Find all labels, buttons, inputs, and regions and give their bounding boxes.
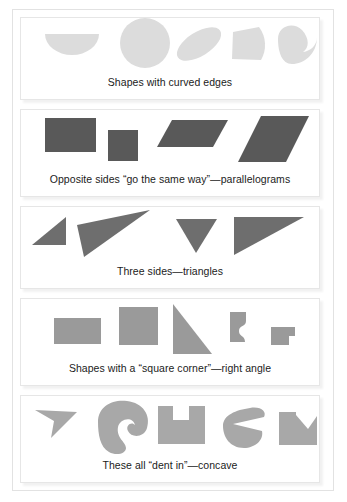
shape-square bbox=[108, 130, 138, 161]
panel-triangles: Three sides—triangles bbox=[20, 206, 320, 289]
caption-parallelograms: Opposite sides “go the same way”—paralle… bbox=[21, 173, 319, 185]
shape-square bbox=[119, 307, 158, 345]
panel-right-angle: Shapes with a “square corner”—right angl… bbox=[20, 298, 320, 386]
shape-rectangle bbox=[45, 118, 96, 152]
panel-stack: Shapes with curved edges Opposite sides … bbox=[20, 17, 326, 483]
shape-arrow-dart bbox=[35, 410, 77, 438]
shape-circle bbox=[120, 18, 170, 68]
panel-curved-edges: Shapes with curved edges bbox=[20, 17, 320, 100]
shape-notched-rectangle bbox=[158, 406, 205, 444]
caption-right-angle: Shapes with a “square corner”—right angl… bbox=[21, 362, 319, 374]
shape-downward-triangle bbox=[176, 219, 217, 253]
caption-curved-edges: Shapes with curved edges bbox=[21, 76, 319, 88]
shape-right-triangle bbox=[173, 304, 212, 354]
shape-ellipse-tilted bbox=[171, 21, 226, 68]
panel-concave: These all “dent in”—concave bbox=[20, 395, 320, 483]
shape-small-right-triangle bbox=[32, 217, 66, 245]
scanned-page: Shapes with curved edges Opposite sides … bbox=[0, 0, 347, 502]
shape-rectangle bbox=[54, 318, 101, 344]
shape-pac-man-blob bbox=[223, 408, 265, 448]
caption-concave: These all “dent in”—concave bbox=[21, 459, 319, 471]
shape-kidney-blob bbox=[98, 401, 148, 454]
shape-crescent-bean bbox=[278, 25, 317, 64]
shape-curvy-flag-polygon bbox=[230, 312, 246, 342]
shape-wide-right-triangle bbox=[234, 217, 304, 255]
shape-l-shaped-polygon bbox=[271, 327, 295, 345]
shape-long-sliver-triangle bbox=[77, 210, 150, 257]
shape-flat-parallelogram bbox=[157, 120, 228, 147]
shape-half-disc bbox=[45, 34, 99, 55]
shape-slanted-parallelogram bbox=[238, 116, 309, 162]
caption-triangles: Three sides—triangles bbox=[21, 265, 319, 277]
shape-circular-sector bbox=[232, 27, 265, 60]
panel-parallelograms: Opposite sides “go the same way”—paralle… bbox=[20, 109, 320, 197]
